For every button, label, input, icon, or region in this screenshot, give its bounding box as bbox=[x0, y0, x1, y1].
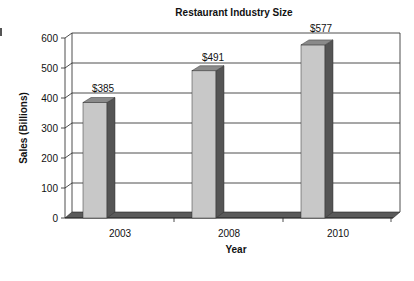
corner-mark bbox=[0, 28, 2, 36]
x-axis-label: Year bbox=[225, 244, 246, 255]
chart-title: Restaurant Industry Size bbox=[175, 7, 293, 18]
y-tick-label: 300 bbox=[41, 123, 58, 134]
y-tick-labels: 600 500 400 300 200 100 0 bbox=[41, 33, 58, 224]
floor bbox=[65, 212, 400, 218]
chart: Restaurant Industry Size 600 bbox=[0, 0, 414, 281]
x-tick-label-2003: 2003 bbox=[109, 228, 132, 239]
x-tick-label-2010: 2010 bbox=[327, 228, 350, 239]
y-tick-label: 200 bbox=[41, 153, 58, 164]
y-tick-label: 100 bbox=[41, 183, 58, 194]
data-label-2008: $491 bbox=[202, 52, 225, 63]
bar-2003 bbox=[83, 98, 115, 219]
y-tick-label: 400 bbox=[41, 93, 58, 104]
bar-2010 bbox=[301, 40, 333, 218]
y-tick-label: 600 bbox=[41, 33, 58, 44]
y-axis-label: Sales (Billions) bbox=[18, 92, 29, 164]
y-tick-label: 0 bbox=[52, 213, 58, 224]
y-tick-label: 500 bbox=[41, 63, 58, 74]
data-label-2003: $385 bbox=[92, 83, 115, 94]
bar-2008 bbox=[192, 66, 224, 218]
x-tick-label-2008: 2008 bbox=[218, 228, 241, 239]
x-axis bbox=[65, 218, 393, 222]
data-label-2010: $577 bbox=[310, 23, 333, 34]
y-tick-marks bbox=[61, 38, 65, 218]
